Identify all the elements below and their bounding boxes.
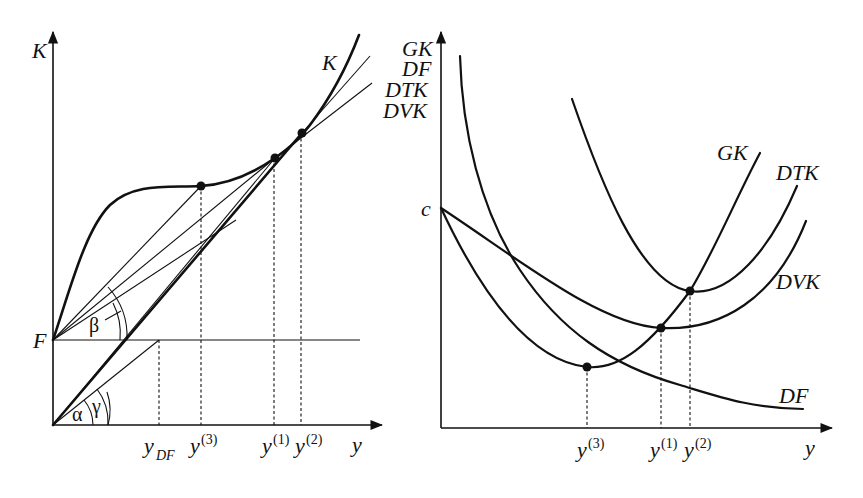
svg-text:(1): (1) (661, 436, 678, 452)
ray-origin-y1 (53, 158, 275, 425)
intercept-c-label: c (421, 196, 431, 221)
label-gk: GK (717, 140, 749, 165)
right-x-axis-label: y (803, 435, 815, 460)
angle-gamma-label: γ (91, 395, 101, 418)
svg-text:y: y (575, 437, 587, 462)
left-x-axis-label: y (350, 432, 362, 457)
point-gk-min (583, 363, 592, 372)
tick-y1-left: y (1) (260, 432, 290, 458)
svg-text:y: y (142, 433, 154, 458)
point-dtk-min (686, 287, 695, 296)
ray-f-extension (275, 83, 372, 158)
right-panel-unit-costs: GK DF DTK DVK c y GK DTK DVK DF y (3) y … (382, 32, 832, 462)
left-panel-total-cost: K y F K α γ β y DF y (3) y (1) y (2) (31, 32, 382, 463)
svg-text:DF: DF (155, 448, 175, 463)
tick-y3-right: y (3) (575, 436, 605, 462)
right-y-label-dvk: DVK (382, 98, 428, 123)
angle-beta-arc-1 (113, 303, 120, 340)
svg-text:y: y (188, 433, 200, 458)
svg-text:y: y (648, 437, 660, 462)
point-y2 (298, 129, 307, 138)
angle-beta-label: β (89, 314, 99, 337)
svg-text:y: y (682, 437, 694, 462)
tick-y2-right: y (2) (682, 436, 712, 462)
ray-origin-tangent-dtk (53, 133, 302, 425)
tick-ydf: y DF (142, 433, 175, 463)
total-cost-curve-k (53, 35, 359, 340)
left-y-axis-label: K (31, 38, 48, 63)
point-y1 (271, 154, 280, 163)
curve-dtk (572, 99, 797, 292)
ray-f-tangent-dvk (53, 158, 275, 340)
tick-y2-left: y (2) (293, 432, 323, 458)
ray-f-y2 (53, 220, 236, 340)
curve-df (460, 56, 803, 409)
ray-origin-gamma (53, 340, 159, 425)
curve-k-label: K (321, 50, 338, 75)
label-dvk: DVK (775, 269, 821, 294)
curve-gk (441, 153, 760, 367)
label-dtk: DTK (775, 160, 820, 185)
fixed-cost-label: F (32, 328, 47, 353)
point-y3 (197, 182, 206, 191)
svg-text:y: y (260, 433, 272, 458)
svg-text:(1): (1) (273, 432, 290, 448)
cost-curves-diagram: K y F K α γ β y DF y (3) y (1) y (2) (0, 0, 863, 498)
svg-text:y: y (293, 433, 305, 458)
svg-text:(2): (2) (695, 436, 712, 452)
tick-y3-left: y (3) (188, 432, 218, 458)
ray-f-y3 (53, 186, 201, 340)
angle-alpha-label: α (72, 403, 83, 425)
label-df: DF (778, 383, 809, 408)
tick-y1-right: y (1) (648, 436, 678, 462)
svg-text:(3): (3) (201, 432, 218, 448)
svg-text:(3): (3) (588, 436, 605, 452)
svg-text:(2): (2) (306, 432, 323, 448)
point-dvk-min (657, 324, 666, 333)
